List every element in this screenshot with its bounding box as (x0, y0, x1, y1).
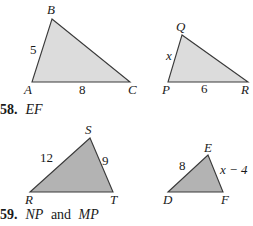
problem-58-number: 58. (0, 102, 18, 117)
vertex-label-f: F (220, 192, 230, 207)
side-label-rs: 12 (40, 150, 53, 165)
vertex-label-s: S (85, 122, 92, 137)
vertex-label-t: T (110, 192, 118, 207)
triangle-pqr: Q P R x 6 (161, 19, 249, 97)
triangle-def: E D F 8 x − 4 (162, 140, 248, 207)
side-label-st: 9 (102, 153, 109, 168)
side-label-de: 8 (179, 158, 186, 173)
problem-59-text-np: NP (25, 207, 44, 222)
problem-58: 58. EF (0, 100, 43, 117)
figure-canvas: B A C 5 8 Q P R x 6 58. EF S R T 12 9 E … (0, 0, 253, 226)
side-label-ef: x − 4 (219, 162, 248, 177)
vertex-label-q: Q (176, 19, 186, 34)
vertex-label-d: D (162, 192, 173, 207)
vertex-label-p: P (161, 82, 170, 97)
side-label-ab: 5 (30, 42, 37, 57)
vertex-label-r2: R (24, 192, 33, 207)
problem-59-text-mp: MP (78, 207, 100, 222)
triangle-rst: S R T 12 9 (24, 122, 118, 207)
vertex-label-c: C (128, 82, 137, 97)
triangle-abc: B A C 5 8 (23, 2, 137, 97)
vertex-label-b: B (47, 2, 55, 17)
problem-59-number: 59. (0, 207, 18, 222)
problem-59: 59. NP and MP (0, 205, 99, 222)
side-label-pq: x (165, 48, 172, 63)
side-label-pr: 6 (201, 81, 208, 96)
side-label-ac: 8 (79, 82, 86, 97)
vertex-label-r: R (240, 82, 249, 97)
vertex-label-a: A (23, 82, 32, 97)
problem-59-text-and: and (47, 207, 74, 222)
problem-58-text: EF (25, 102, 44, 117)
vertex-label-e: E (203, 140, 212, 155)
